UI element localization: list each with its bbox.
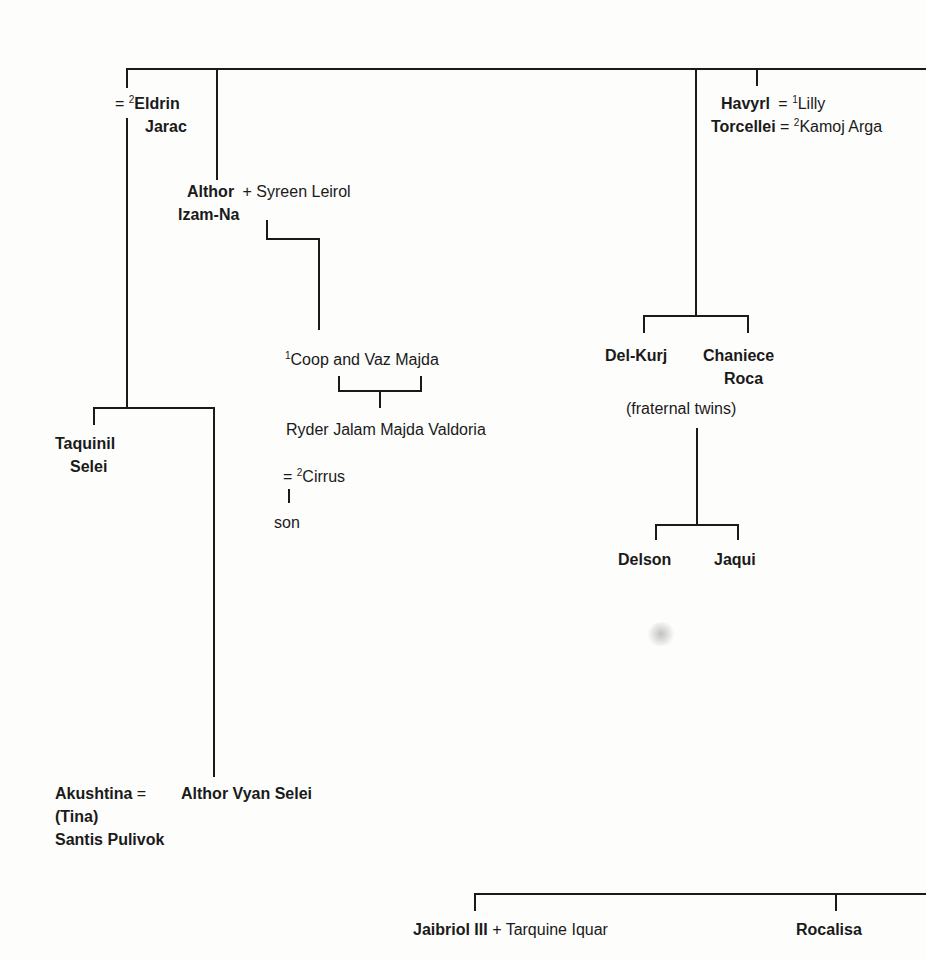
connector-twins-trunk — [695, 68, 697, 316]
connector-althor-izam-child — [266, 220, 268, 240]
person-althor-izam-na-surname: Izam-Na — [178, 205, 239, 225]
connector-eldrin-descent — [126, 118, 128, 408]
person-delson: Delson — [618, 550, 671, 570]
person-ryder-jalam: Ryder Jalam Majda Valdoria — [286, 420, 486, 440]
person-coop-and-vaz-majda: 1Coop and Vaz Majda — [285, 350, 439, 370]
spouse-kamoj-arga: Kamoj Arga — [799, 118, 882, 135]
person-chaniece-roca: Chaniece — [703, 346, 774, 366]
connector-chaniece-drop — [747, 315, 749, 333]
top-generation-line — [126, 68, 926, 70]
person-taquinil-selei: Taquinil — [55, 434, 115, 454]
spouse-lilly: Lilly — [798, 95, 826, 112]
person-jaqui: Jaqui — [714, 550, 756, 570]
person-eldrin-jarac-surname: Jarac — [145, 117, 187, 137]
scan-smudge — [646, 622, 676, 646]
connector-rocalisa-drop — [835, 893, 837, 911]
connector-jaibriol-drop — [474, 893, 476, 911]
connector-althor-izam-child-h — [266, 238, 320, 240]
person-eldrin-jarac: = 2Eldrin — [115, 94, 180, 114]
person-chaniece-roca-surname: Roca — [724, 369, 763, 389]
person-akushtina-nickname: (Tina) — [55, 807, 98, 827]
connector-son — [288, 489, 290, 503]
connector-ryder-drop — [379, 390, 381, 408]
connector-eldrin-children — [93, 407, 215, 409]
person-jaibriol-iii: Jaibriol III + Tarquine Iquar — [413, 920, 608, 940]
bottom-generation-line — [474, 893, 926, 895]
person-althor-vyan-selei: Althor Vyan Selei — [181, 784, 312, 804]
connector-eldrin-drop — [126, 68, 128, 88]
person-son: son — [274, 513, 300, 533]
person-althor-izam-na: Althor + Syreen Leirol — [187, 182, 351, 202]
connector-havyrl-drop — [756, 68, 758, 86]
note-fraternal-twins: (fraternal twins) — [626, 399, 736, 419]
connector-twins-children-trunk — [696, 428, 698, 526]
connector-twins — [643, 315, 749, 317]
person-rocalisa: Rocalisa — [796, 920, 862, 940]
person-del-kurj: Del-Kurj — [605, 346, 667, 366]
spouse-tarquine-iquar: + Tarquine Iquar — [488, 921, 608, 938]
person-havyrl-surname: Torcellei = 2Kamoj Arga — [711, 117, 882, 137]
person-taquinil-selei-surname: Selei — [70, 457, 107, 477]
connector-delson-jaqui — [655, 524, 739, 526]
connector-althor-izam-drop — [216, 68, 218, 180]
connector-jaqui-drop — [737, 524, 739, 540]
connector-delkurj-drop — [643, 315, 645, 333]
spouse-syreen-leirol: + Syreen Leirol — [243, 183, 351, 200]
person-havyrl: Havyrl = 1Lilly — [721, 94, 825, 114]
person-cirrus: = 2Cirrus — [283, 467, 345, 487]
person-akushtina-surname: Santis Pulivok — [55, 830, 164, 850]
connector-althor-vyan-drop — [213, 407, 215, 777]
connector-delson-drop — [655, 524, 657, 540]
connector-coop-drop — [318, 238, 320, 330]
connector-taquinil-drop — [93, 407, 95, 425]
person-akushtina: Akushtina = — [55, 784, 146, 804]
